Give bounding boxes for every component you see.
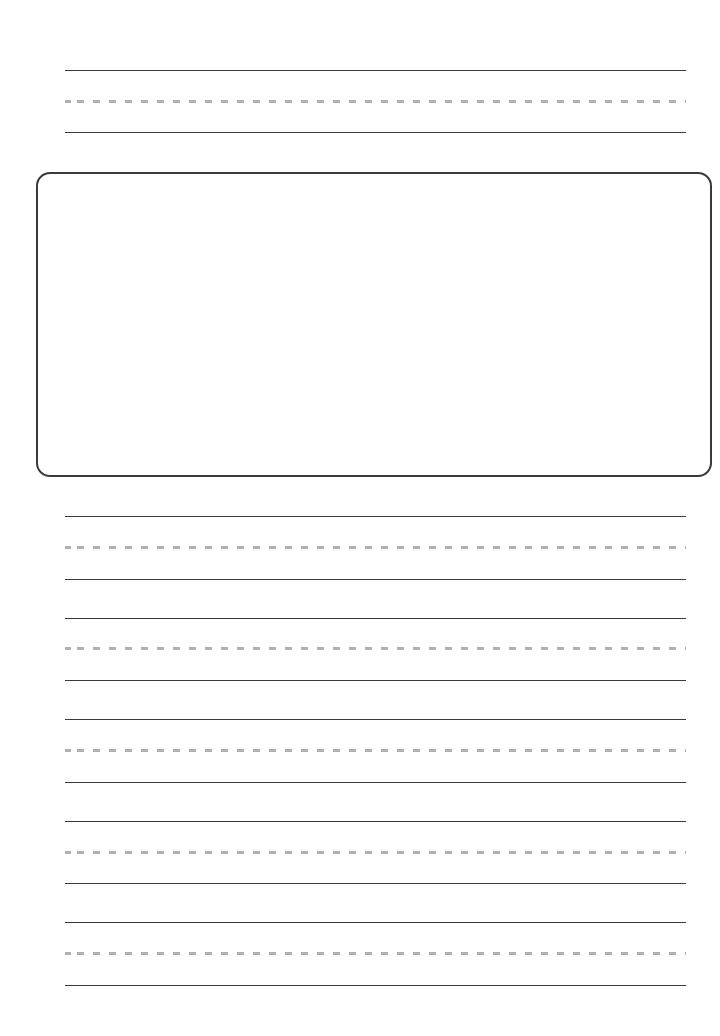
top-line xyxy=(65,70,686,71)
dashed-midline xyxy=(65,100,686,103)
baseline xyxy=(65,883,686,884)
dashed-midline xyxy=(65,851,686,854)
baseline xyxy=(65,680,686,681)
baseline xyxy=(65,132,686,133)
baseline xyxy=(65,985,686,986)
top-line xyxy=(65,821,686,822)
writing-line-group-6[interactable] xyxy=(0,0,720,70)
baseline xyxy=(65,579,686,580)
top-line xyxy=(65,922,686,923)
top-line xyxy=(65,719,686,720)
drawing-box[interactable] xyxy=(36,172,712,477)
baseline xyxy=(65,782,686,783)
dashed-midline xyxy=(65,647,686,650)
top-line xyxy=(65,516,686,517)
top-line xyxy=(65,618,686,619)
dashed-midline xyxy=(65,546,686,549)
dashed-midline xyxy=(65,952,686,955)
dashed-midline xyxy=(65,749,686,752)
